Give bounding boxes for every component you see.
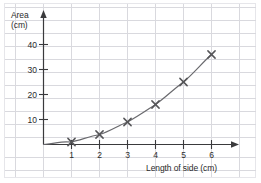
x-axis-title: Length of side (cm) (146, 163, 217, 173)
y-tick-label-20: 20 (22, 90, 37, 100)
x-tick-label-2: 2 (94, 150, 106, 160)
x-tick-label-1: 1 (66, 150, 78, 160)
y-tick-label-10: 10 (22, 115, 37, 125)
chart-screenshot: Area (cm) Length of side (cm) 40 30 20 1… (0, 0, 261, 183)
x-tick-label-6: 6 (206, 150, 218, 160)
x-tick-label-3: 3 (122, 150, 134, 160)
x-tick-label-4: 4 (150, 150, 162, 160)
grid-horizontal (5, 8, 256, 171)
y-tick-label-40: 40 (22, 40, 37, 50)
y-tick-label-30: 30 (22, 65, 37, 75)
y-axis-title-line1: Area (11, 10, 29, 20)
y-axis-title-line2: (cm) (11, 20, 28, 30)
x-tick-label-5: 5 (178, 150, 190, 160)
